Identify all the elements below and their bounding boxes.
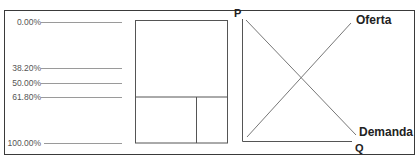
supply-label: Oferta: [356, 13, 391, 27]
price-axis-label: P: [234, 7, 241, 19]
demand-line: [246, 20, 356, 135]
demand-label: Demanda: [359, 125, 413, 139]
supply-line: [247, 23, 351, 137]
quantity-axis-label: Q: [355, 142, 364, 154]
golden-box-outline: [136, 21, 228, 144]
